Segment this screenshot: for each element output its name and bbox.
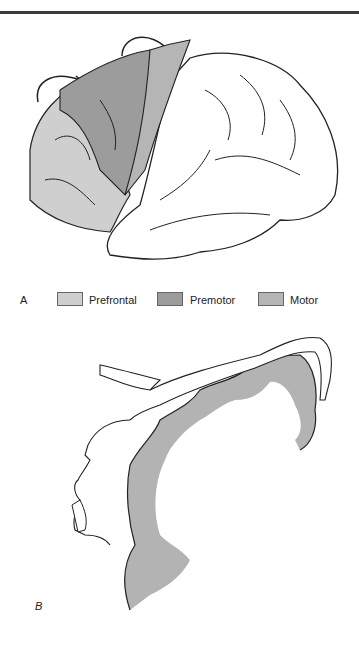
panel-label-a: A <box>20 294 27 306</box>
brain-lateral-view <box>0 0 359 290</box>
legend-label-premotor: Premotor <box>190 294 235 306</box>
panel-label-b: B <box>35 600 42 612</box>
legend-swatch-motor <box>258 292 284 306</box>
legend-swatch-premotor <box>157 292 183 306</box>
motor-homunculus <box>0 320 359 645</box>
legend-label-prefrontal: Prefrontal <box>89 294 137 306</box>
legend: A Prefrontal Premotor Motor <box>0 290 359 312</box>
legend-label-motor: Motor <box>290 294 318 306</box>
legend-swatch-prefrontal <box>57 292 83 306</box>
